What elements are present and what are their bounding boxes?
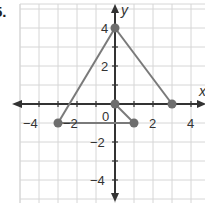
data-point [130,119,139,128]
x-tick-label-2: 2 [149,116,156,131]
y-tick-label-neg4: −4 [90,173,105,188]
y-axis-label: y [120,2,129,18]
y-axis-down-arrow-icon [111,193,119,202]
y-tick-label-neg2: −2 [90,135,105,150]
y-tick-label-4: 4 [101,21,108,36]
data-point [111,100,120,109]
x-tick-label-neg4: −4 [23,116,38,131]
origin-label: 0 [102,109,109,124]
data-point [168,100,177,109]
x-axis-left-arrow-icon [12,100,22,108]
x-tick-label-4: 4 [187,116,194,131]
coordinate-plane: y x −4 −2 0 2 4 4 2 −2 −4 [0,0,205,203]
x-axis-label: x [198,83,205,99]
x-tick-label-neg2: −2 [63,116,78,131]
data-point [54,119,63,128]
y-tick-label-2: 2 [101,59,108,74]
data-point [111,24,120,33]
x-axis-right-arrow-icon [197,100,205,108]
